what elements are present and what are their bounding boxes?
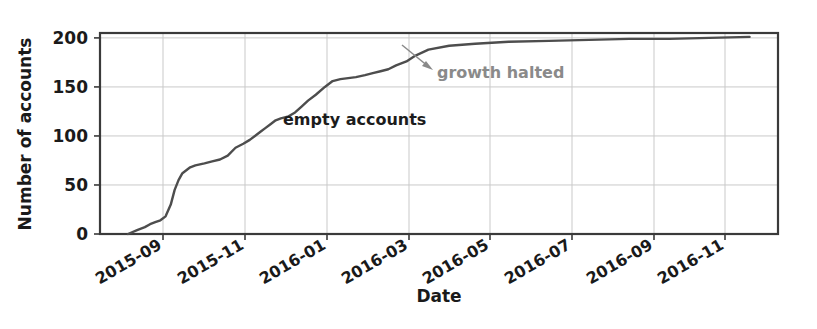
chart-figure: 050100150200 2015-092015-112016-012016-0… (0, 0, 817, 329)
line-chart-canvas: 050100150200 2015-092015-112016-012016-0… (0, 0, 817, 329)
y-tick-label: 100 (53, 126, 89, 146)
annotation-growth-halted: growth halted (437, 63, 564, 82)
y-tick-label: 200 (53, 28, 89, 48)
y-tick-label: 150 (53, 77, 89, 97)
y-tick-label: 0 (76, 224, 88, 244)
annotation-empty-accounts: empty accounts (283, 110, 426, 129)
y-axis-title: Number of accounts (15, 38, 35, 231)
y-tick-label: 50 (64, 175, 88, 195)
x-axis-title: Date (416, 286, 461, 306)
